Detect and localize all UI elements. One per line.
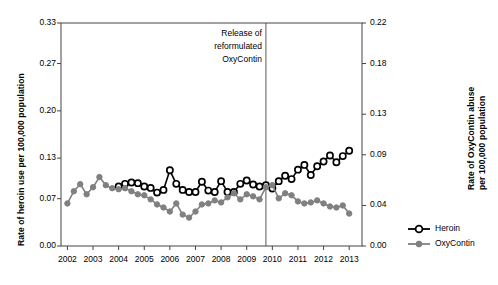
chart-figure: Rate of heroin use per 100,000 populatio… [0,0,498,285]
legend-label-oxycontin[interactable]: OxyContin [435,238,475,248]
right-axis-tick-label: 0.18 [370,58,387,68]
annotation-text-line: reformulated [160,41,262,51]
left-axis-tick-label: 0.00 [28,240,56,250]
right-axis-tick-label: 0.00 [370,240,387,250]
left-axis-tick-label: 0.33 [28,17,56,27]
annotation-text-line: Release of [160,28,262,38]
left-axis-tick-label: 0.27 [28,58,56,68]
right-axis-tick-label: 0.22 [370,17,387,27]
left-axis-tick-label: 0.07 [28,193,56,203]
left-axis-tick-label: 0.13 [28,152,56,162]
legend-markers[interactable] [408,226,430,247]
right-axis-tick-label: 0.09 [370,149,387,159]
x-axis-tick-label: 2013 [334,254,364,264]
right-axis-tick-label: 0.04 [370,199,387,209]
legend-label-heroin[interactable]: Heroin [435,223,460,233]
right-axis-tick-label: 0.13 [370,108,387,118]
data-series [65,148,353,221]
left-axis-tick-label: 0.20 [28,105,56,115]
left-axis-title: Rate of heroin use per 100,000 populatio… [16,73,26,246]
right-axis-title-line-2: per 100,000 population [477,96,487,190]
annotation-text-line: OxyContin [160,54,262,64]
right-axis-title-line-1: Rate of OxyContin abuse [466,87,476,190]
